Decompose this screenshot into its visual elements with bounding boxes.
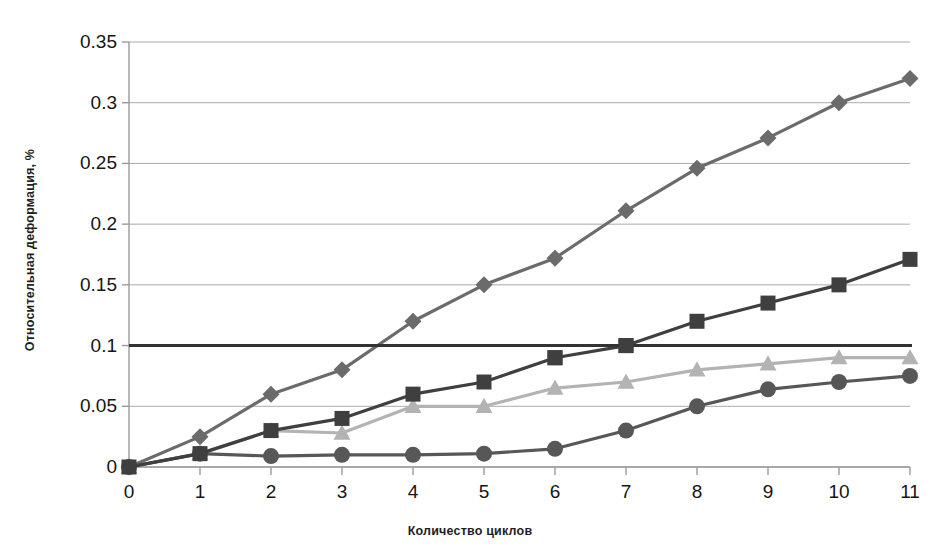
data-point-marker-square: [761, 296, 776, 311]
axes: [122, 42, 910, 475]
x-axis-tick-label: 1: [195, 481, 206, 503]
data-point-marker-diamond: [263, 386, 280, 403]
data-point-marker-square: [193, 446, 208, 461]
x-axis-tick-label: 2: [266, 481, 277, 503]
data-point-marker-square: [477, 375, 492, 390]
data-point-marker-square: [903, 252, 918, 267]
y-axis-tick-label: 0.15: [10, 274, 117, 296]
x-axis-tick-label: 4: [408, 481, 419, 503]
gridlines: [129, 42, 910, 467]
data-point-marker-square: [264, 423, 279, 438]
y-axis-label: Относительная деформация, %: [10, 0, 50, 500]
y-axis-tick-label: 0.25: [10, 152, 117, 174]
x-axis-tick-label: 11: [900, 481, 920, 503]
y-axis-tick-label: 0.35: [10, 31, 117, 53]
data-point-marker-diamond: [192, 428, 209, 445]
data-point-marker-square: [406, 387, 421, 402]
data-point-marker-circle: [547, 441, 563, 457]
data-point-marker-diamond: [689, 160, 706, 177]
series-line: [129, 376, 910, 467]
data-point-marker-circle: [263, 448, 279, 464]
y-axis-label-text: Относительная деформация, %: [23, 149, 37, 351]
y-axis-tick-label: 0.2: [10, 213, 117, 235]
line-chart-plot: [0, 0, 940, 559]
data-point-marker-circle: [831, 374, 847, 390]
data-point-marker-circle: [902, 368, 918, 384]
x-axis-tick-label: 8: [692, 481, 703, 503]
x-axis-tick-label: 0: [124, 481, 135, 503]
x-axis-tick-label: 6: [550, 481, 561, 503]
data-point-marker-square: [548, 350, 563, 365]
x-axis-tick-label: 5: [479, 481, 490, 503]
data-point-marker-circle: [476, 446, 492, 462]
data-point-marker-diamond: [547, 250, 564, 267]
data-point-marker-square: [832, 277, 847, 292]
data-point-marker-circle: [689, 398, 705, 414]
data-point-marker-circle: [618, 423, 634, 439]
data-point-marker-square: [335, 411, 350, 426]
data-point-marker-diamond: [902, 70, 919, 87]
data-point-marker-diamond: [476, 276, 493, 293]
data-point-marker-square: [122, 460, 137, 475]
data-point-marker-diamond: [831, 94, 848, 111]
data-point-marker-diamond: [618, 202, 635, 219]
x-axis-label: Количество циклов: [0, 524, 940, 538]
data-point-marker-square: [690, 314, 705, 329]
data-point-marker-square: [619, 338, 634, 353]
y-axis-tick-label: 0.05: [10, 395, 117, 417]
y-axis-tick-label: 0.1: [10, 335, 117, 357]
y-axis-tick-label: 0.3: [10, 92, 117, 114]
y-axis-tick-label: 0: [10, 456, 117, 478]
x-axis-tick-label: 7: [621, 481, 632, 503]
series-diamond: [121, 70, 919, 476]
series-line: [129, 78, 910, 467]
x-axis-tick-label: 10: [828, 481, 849, 503]
series-circle: [121, 368, 918, 475]
data-point-marker-diamond: [760, 129, 777, 146]
x-axis-tick-label: 9: [763, 481, 774, 503]
data-point-marker-circle: [405, 447, 421, 463]
x-axis-tick-label: 3: [337, 481, 348, 503]
chart-container: Относительная деформация, % Количество ц…: [0, 0, 940, 559]
data-point-marker-circle: [760, 381, 776, 397]
data-point-marker-circle: [334, 447, 350, 463]
